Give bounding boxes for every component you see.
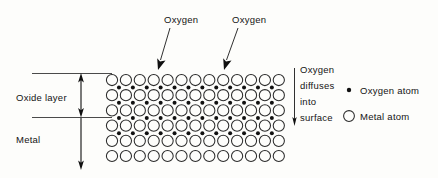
metal-atom (190, 135, 201, 146)
oxygen-atom (145, 131, 149, 135)
oxygen-atom (159, 86, 163, 90)
metal-atom (176, 135, 187, 146)
metal-atom (273, 105, 284, 116)
atom-lattice (106, 74, 284, 161)
oxygen-atom (256, 101, 260, 105)
metal-atom (273, 135, 284, 146)
oxygen-atom (173, 131, 177, 135)
metal-atom (218, 120, 229, 131)
metal-atom (218, 150, 229, 161)
metal-atom (148, 150, 159, 161)
metal-atom (148, 74, 159, 85)
metal-atom (273, 150, 284, 161)
metal-atom (120, 150, 131, 161)
metal-atom (218, 74, 229, 85)
oxygen-atom (200, 131, 204, 135)
metal-atom (259, 105, 270, 116)
metal-atom (148, 90, 159, 101)
metal-atom (245, 150, 256, 161)
metal-atom (232, 105, 243, 116)
metal-atom (245, 90, 256, 101)
oxygen-atom (145, 86, 149, 90)
oxygen-atom (145, 116, 149, 120)
metal-atom (162, 135, 173, 146)
oxygen-atom (270, 86, 274, 90)
metal-atom (259, 150, 270, 161)
metal-atom (259, 120, 270, 131)
oxygen-atom (186, 131, 190, 135)
metal-atom (120, 135, 131, 146)
oxygen-atom (186, 86, 190, 90)
oxygen-atom (173, 86, 177, 90)
metal-atom (148, 120, 159, 131)
oxygen-atom (270, 116, 274, 120)
oxygen-atom (131, 131, 135, 135)
oxygen-atom (256, 86, 260, 90)
oxygen-atom (186, 101, 190, 105)
metal-atom (120, 120, 131, 131)
oxygen-atom (242, 116, 246, 120)
oxygen-atom (200, 86, 204, 90)
metal-atom (106, 135, 117, 146)
oxygen-atom (228, 131, 232, 135)
oxygen-atom (214, 86, 218, 90)
metal-atom (232, 150, 243, 161)
metal-atom (176, 120, 187, 131)
metal-atom (204, 135, 215, 146)
oxygen-atom (131, 101, 135, 105)
oxygen-atom (242, 131, 246, 135)
metal-atom (190, 74, 201, 85)
metal-atom (106, 120, 117, 131)
metal-atom (148, 105, 159, 116)
callout-oxygen-right: Oxygen (232, 14, 266, 25)
oxygen-atom (228, 101, 232, 105)
oxygen-atom (214, 131, 218, 135)
oxide-thickness-arrow (78, 73, 84, 118)
metal-atom (245, 135, 256, 146)
metal-atom (273, 90, 284, 101)
label-metal: Metal (16, 134, 40, 145)
oxygen-atom (200, 116, 204, 120)
metal-atom (218, 135, 229, 146)
metal-atom (162, 150, 173, 161)
metal-atom (259, 90, 270, 101)
label-oxide-layer: Oxide layer (16, 92, 67, 103)
oxygen-atom (131, 86, 135, 90)
metal-atom (162, 105, 173, 116)
metal-atom (134, 150, 145, 161)
metal-atom (162, 90, 173, 101)
oxygen-atom (256, 131, 260, 135)
diffusion-note-line-4: surface (300, 112, 333, 123)
oxygen-atom (159, 116, 163, 120)
oxygen-atom (200, 101, 204, 105)
diffusion-note-line-3: into (300, 96, 316, 107)
metal-atom (176, 74, 187, 85)
oxygen-atom (145, 101, 149, 105)
oxygen-atom (242, 101, 246, 105)
metal-atom (204, 150, 215, 161)
oxygen-atom (228, 86, 232, 90)
metal-atom (134, 135, 145, 146)
metal-atom (259, 135, 270, 146)
oxygen-atom (117, 131, 121, 135)
metal-atom (245, 105, 256, 116)
oxygen-atom (159, 131, 163, 135)
metal-atom (273, 74, 284, 85)
diffusion-note-line-2: diffuses (300, 80, 335, 91)
metal-atom (232, 90, 243, 101)
metal-atom (204, 120, 215, 131)
metal-atom (190, 105, 201, 116)
legend-oxygen-marker (347, 88, 351, 92)
metal-atom (204, 105, 215, 116)
metal-atom (232, 120, 243, 131)
metal-atom (106, 74, 117, 85)
metal-atom (106, 150, 117, 161)
oxygen-atom (214, 101, 218, 105)
metal-atom (106, 105, 117, 116)
legend-label-metal-atom: Metal atom (360, 111, 410, 122)
metal-atom (245, 120, 256, 131)
oxygen-atom (214, 116, 218, 120)
oxygen-atom (173, 101, 177, 105)
metal-atom (245, 74, 256, 85)
oxygen-atom (117, 116, 121, 120)
